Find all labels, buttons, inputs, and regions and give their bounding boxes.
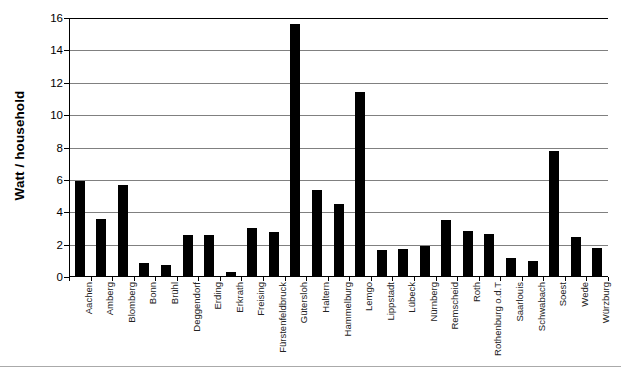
bar-chart-figure: Watt / household 0246810121416 AachenAmb…	[0, 0, 621, 367]
x-axis-tick	[500, 277, 501, 281]
bar	[484, 234, 494, 277]
x-axis-tick	[306, 277, 307, 281]
bar	[377, 250, 387, 277]
bar	[506, 258, 516, 277]
x-axis-tick-labels: AachenAmbergBlombergBonnBrühlDeggendorfE…	[69, 282, 608, 367]
bar	[118, 185, 128, 277]
x-axis-tick-label: Fürstenfeldbruck	[278, 282, 288, 353]
x-axis-tick-label: Freising	[256, 282, 266, 316]
x-axis-tick	[91, 277, 92, 281]
x-axis-tick	[565, 277, 566, 281]
y-axis-tick-label: 10	[39, 109, 63, 121]
x-axis-tick	[436, 277, 437, 281]
x-axis-tick	[522, 277, 523, 281]
x-axis-tick	[328, 277, 329, 281]
x-axis-tick	[479, 277, 480, 281]
x-axis-tick-label: Deggendorf	[192, 282, 202, 332]
x-axis-tick	[177, 277, 178, 281]
x-axis-tick-label: Haltern	[321, 282, 331, 313]
x-axis-tick-label: Remscheid	[450, 282, 460, 330]
x-axis-tick	[392, 277, 393, 281]
x-axis-tick	[198, 277, 199, 281]
x-axis-tick	[349, 277, 350, 281]
x-axis-tick-label: Roth	[472, 282, 482, 302]
bar	[204, 235, 214, 277]
bar	[139, 263, 149, 277]
x-axis-tick-label: Saarlouis	[515, 282, 525, 322]
x-axis-tick-label: Amberg	[105, 282, 115, 315]
bar	[528, 261, 538, 277]
bar	[183, 235, 193, 277]
x-axis-tick	[285, 277, 286, 281]
x-axis-tick-label: Erkrath	[235, 282, 245, 313]
bar	[312, 190, 322, 277]
x-axis-tick-label: Blomberg	[127, 282, 137, 323]
bar	[290, 24, 300, 277]
x-axis-tick	[457, 277, 458, 281]
x-axis-tick	[263, 277, 264, 281]
x-axis-tick	[155, 277, 156, 281]
x-axis-tick-label: Wede	[580, 282, 590, 307]
x-axis-tick-label: Erding	[213, 282, 223, 309]
x-axis-tick-label: Nürnberg	[429, 282, 439, 322]
bar	[441, 220, 451, 277]
bar	[398, 249, 408, 277]
bar	[75, 181, 85, 277]
x-axis-tick	[69, 277, 70, 281]
bar	[592, 248, 602, 277]
x-axis-tick-label: Schwabach	[537, 282, 547, 331]
plot-area	[69, 18, 608, 277]
x-axis-tick-label: Würzburg	[601, 282, 611, 323]
y-axis-tick-label: 2	[39, 239, 63, 251]
x-axis-tick-label: Lippstadt	[386, 282, 396, 321]
y-axis-tick-label: 0	[39, 271, 63, 283]
x-axis-tick-label: Brühl	[170, 282, 180, 304]
y-axis-tick-label: 4	[39, 206, 63, 218]
x-axis-ticks	[69, 277, 608, 281]
bar-series	[69, 18, 608, 277]
x-axis-tick	[608, 277, 609, 281]
bar	[334, 204, 344, 277]
y-axis-tick-label: 12	[39, 77, 63, 89]
y-axis-tick-label: 6	[39, 174, 63, 186]
x-axis-tick	[220, 277, 221, 281]
bar	[355, 92, 365, 277]
x-axis-tick-label: Lemgo	[364, 282, 374, 311]
x-axis-tick-label: Hammelburg	[343, 282, 353, 336]
bar	[420, 246, 430, 277]
y-axis-tick-label: 8	[39, 142, 63, 154]
x-axis-tick-label: Bonn	[148, 282, 158, 304]
x-axis-tick	[371, 277, 372, 281]
x-axis-tick-label: Rothenburg o.d.T	[493, 282, 503, 356]
y-axis-tick-label: 16	[39, 12, 63, 24]
x-axis-tick	[414, 277, 415, 281]
x-axis-tick	[543, 277, 544, 281]
x-axis-tick-label: Aachen	[84, 282, 94, 314]
x-axis-tick	[134, 277, 135, 281]
x-axis-tick	[586, 277, 587, 281]
bar	[549, 151, 559, 277]
bar	[96, 219, 106, 277]
x-axis-tick	[112, 277, 113, 281]
y-axis-tick-label: 14	[39, 44, 63, 56]
bar	[161, 265, 171, 277]
bar	[571, 237, 581, 277]
x-axis-tick-label: Lübeck	[407, 282, 417, 313]
x-axis-tick-label: Gütersloh	[299, 282, 309, 323]
bar	[247, 228, 257, 277]
bar	[463, 231, 473, 277]
x-axis-tick	[241, 277, 242, 281]
bar	[269, 232, 279, 277]
x-axis-tick-label: Soest	[558, 282, 568, 306]
